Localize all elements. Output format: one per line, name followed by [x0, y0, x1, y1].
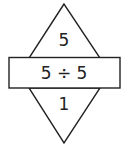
bottom-value: 1 — [59, 94, 70, 114]
top-value: 5 — [59, 30, 70, 50]
fact-diamond: 5 5 ÷ 5 1 — [0, 0, 124, 148]
expression-text: 5 ÷ 5 — [41, 63, 88, 83]
